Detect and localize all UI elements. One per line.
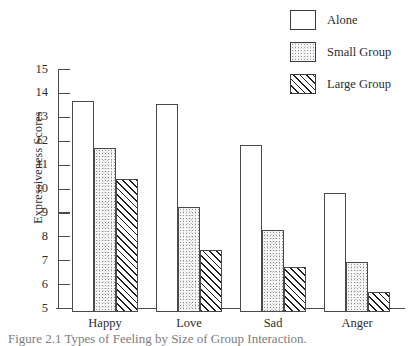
y-axis-tick [58, 69, 70, 70]
bar-small-group [346, 262, 368, 312]
y-axis-tick-label: 6 [14, 278, 48, 291]
plot-area: 15141312111098765 HappyLoveSadAnger [58, 66, 405, 312]
legend-label-alone: Alone [327, 14, 358, 27]
x-axis-tick-label: Sad [228, 316, 318, 331]
bar-alone [72, 101, 94, 313]
y-axis-tick-label: 8 [14, 230, 48, 243]
y-axis-tick [58, 308, 70, 309]
y-axis-tick-label: 11 [14, 158, 48, 171]
bar-group [72, 70, 138, 312]
y-axis-tick [58, 260, 70, 261]
y-axis-tick-labels: 15141312111098765 [14, 66, 48, 312]
y-axis-tick [58, 212, 70, 213]
bar-group [240, 70, 306, 312]
figure-caption: Figure 2.1 Types of Feeling by Size of G… [8, 331, 412, 346]
empty-swatch-icon [290, 10, 316, 30]
y-axis-tick [58, 141, 70, 142]
y-axis-tick-label: 15 [14, 63, 48, 76]
x-axis-tick-label: Happy [60, 316, 150, 331]
bar-alone [156, 104, 178, 312]
y-axis-tick-label: 13 [14, 110, 48, 123]
bar-large-group [284, 267, 306, 312]
y-axis-tick [58, 236, 70, 237]
bar-alone [240, 145, 262, 312]
bar-small-group [178, 207, 200, 312]
bar-group [156, 70, 222, 312]
bar-alone [324, 193, 346, 313]
y-axis-tick [58, 284, 70, 285]
x-axis-tick-label: Love [144, 316, 234, 331]
legend-item-alone: Alone [290, 8, 418, 32]
y-axis-tick-label: 12 [14, 134, 48, 147]
y-axis-tick-label: 10 [14, 182, 48, 195]
stipple-swatch-icon [290, 42, 316, 62]
bar-large-group [200, 250, 222, 312]
y-axis-tick [58, 189, 70, 190]
y-axis-tick-label: 9 [14, 206, 48, 219]
bar-small-group [262, 230, 284, 313]
bar-group [324, 70, 390, 312]
legend-label-small-group: Small Group [327, 46, 391, 59]
legend-item-small-group: Small Group [290, 40, 418, 64]
x-axis-tick-label: Anger [312, 316, 402, 331]
y-axis-tick [58, 117, 70, 118]
bar-small-group [94, 148, 116, 312]
bar-large-group [116, 179, 138, 312]
y-axis-tick [58, 93, 70, 94]
y-axis-tick-label: 14 [14, 86, 48, 99]
y-axis-tick-label: 7 [14, 254, 48, 267]
y-axis-tick-label: 5 [14, 302, 48, 315]
bar-large-group [368, 292, 390, 312]
y-axis-tick [58, 165, 70, 166]
